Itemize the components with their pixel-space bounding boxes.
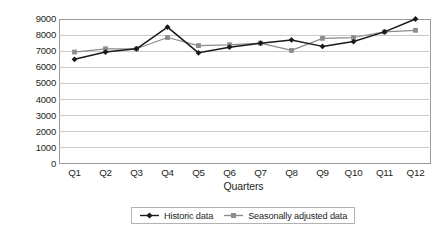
series-line bbox=[75, 19, 416, 59]
x-axis-tick-label: Q9 bbox=[316, 167, 329, 178]
x-axis-tick-label: Q5 bbox=[192, 167, 205, 178]
y-axis-tick-label: 5000 bbox=[22, 79, 56, 89]
data-point-marker bbox=[289, 48, 294, 53]
x-axis-tick-label: Q7 bbox=[254, 167, 267, 178]
chart-legend: Historic dataSeasonally adjusted data bbox=[131, 207, 355, 224]
legend-diamond-marker-icon bbox=[139, 211, 160, 220]
gridlines bbox=[59, 35, 431, 148]
y-axis-tick-label: 2000 bbox=[22, 127, 56, 137]
data-point-marker bbox=[196, 43, 201, 48]
sales-volumes-line-chart: Sales volumes 90008000700060005000400030… bbox=[0, 0, 446, 237]
y-axis-tick-label: 8000 bbox=[22, 30, 56, 40]
legend-item: Seasonally adjusted data bbox=[223, 211, 347, 221]
data-point-marker bbox=[320, 43, 326, 49]
x-axis-tick-label: Q2 bbox=[99, 167, 112, 178]
plot-svg bbox=[59, 19, 431, 164]
x-axis-tick-label: Q12 bbox=[407, 167, 425, 178]
y-axis-tick-labels: 9000800070006000500040003000200010000 bbox=[22, 14, 56, 166]
data-point-marker bbox=[413, 16, 419, 22]
x-axis-tick-label: Q6 bbox=[223, 167, 236, 178]
y-axis-tick-label: 9000 bbox=[22, 14, 56, 24]
y-axis-tick-label: 4000 bbox=[22, 95, 56, 105]
data-point-marker bbox=[289, 37, 295, 43]
y-axis-tick-label: 3000 bbox=[22, 111, 56, 121]
y-axis-tick-label: 6000 bbox=[22, 63, 56, 73]
data-point-marker bbox=[320, 36, 325, 41]
series-layer bbox=[72, 16, 419, 62]
series-line bbox=[75, 30, 416, 52]
legend-label: Historic data bbox=[164, 211, 213, 221]
legend-item: Historic data bbox=[139, 211, 213, 221]
y-axis-tick-label: 1000 bbox=[22, 143, 56, 153]
legend-square-marker-icon bbox=[223, 211, 244, 220]
data-point-marker bbox=[72, 50, 77, 55]
x-axis-tick-labels: Q1Q2Q3Q4Q5Q6Q7Q8Q9Q10Q11Q12 bbox=[59, 167, 431, 181]
y-axis-tick-label: 7000 bbox=[22, 46, 56, 56]
data-point-marker bbox=[72, 56, 78, 62]
x-axis-tick-label: Q10 bbox=[345, 167, 363, 178]
legend-label: Seasonally adjusted data bbox=[248, 211, 347, 221]
data-point-marker bbox=[165, 35, 170, 40]
x-axis-tick-label: Q1 bbox=[68, 167, 81, 178]
data-point-marker bbox=[413, 28, 418, 33]
x-axis-tick-label: Q8 bbox=[285, 167, 298, 178]
y-axis-tick-label: 0 bbox=[22, 159, 56, 169]
x-axis-tick-label: Q11 bbox=[376, 167, 393, 178]
x-axis-tick-label: Q3 bbox=[130, 167, 143, 178]
x-axis-tick-label: Q4 bbox=[161, 167, 174, 178]
x-axis-title: Quarters bbox=[56, 180, 431, 192]
